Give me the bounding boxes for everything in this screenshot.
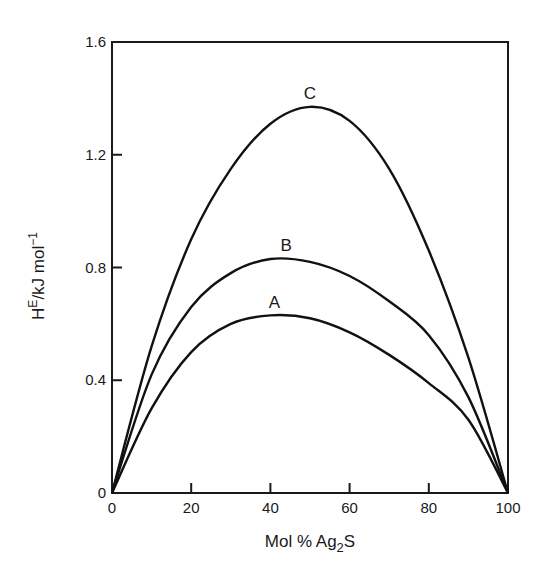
x-tick-label: 0 xyxy=(108,499,116,516)
plot-border xyxy=(112,42,508,493)
curve-label-c: C xyxy=(304,84,316,103)
curve-c xyxy=(112,107,508,493)
curve-label-b: B xyxy=(281,236,292,255)
axis-ticks: 02040608010000.40.81.21.6 xyxy=(85,33,520,516)
y-tick-label: 1.6 xyxy=(85,33,106,50)
y-tick-label: 0.4 xyxy=(85,371,106,388)
plot-frame xyxy=(112,42,508,493)
x-tick-label: 100 xyxy=(495,499,520,516)
x-tick-label: 40 xyxy=(262,499,279,516)
x-tick-label: 60 xyxy=(341,499,358,516)
y-tick-label: 0 xyxy=(98,484,106,501)
curves xyxy=(112,107,508,493)
y-tick-label: 1.2 xyxy=(85,146,106,163)
y-tick-label: 0.8 xyxy=(85,259,106,276)
curve-a xyxy=(112,315,508,493)
y-axis-title: HE/kJ mol−1 xyxy=(26,232,48,320)
chart-canvas: 02040608010000.40.81.21.6 ABC Mol % Ag2S… xyxy=(0,0,544,574)
x-tick-label: 20 xyxy=(183,499,200,516)
curve-label-a: A xyxy=(269,293,281,312)
x-tick-label: 80 xyxy=(420,499,437,516)
x-axis-title: Mol % Ag2S xyxy=(265,532,355,555)
